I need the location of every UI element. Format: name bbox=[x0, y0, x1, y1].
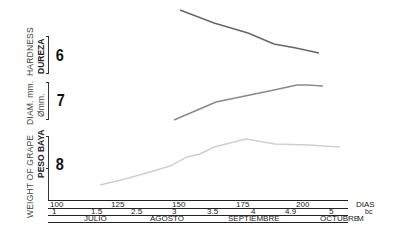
x-tick-secondary: 2.5 bbox=[131, 207, 142, 216]
x-axis-secondary-label: bc bbox=[365, 208, 372, 215]
x-tick-days: 125 bbox=[111, 200, 124, 209]
x-tick-days: 200 bbox=[296, 200, 309, 209]
x-month: AGOSTO bbox=[150, 214, 184, 223]
x-month: M bbox=[357, 214, 364, 223]
x-month: SEPTIEMBRE bbox=[228, 214, 280, 223]
x-tick-secondary: 4.9 bbox=[285, 207, 296, 216]
hardness-line bbox=[180, 10, 319, 53]
x-tick-days: 175 bbox=[236, 200, 249, 209]
x-month: JULIO bbox=[84, 214, 107, 223]
weight-line bbox=[100, 139, 340, 185]
x-tick-secondary: 1 bbox=[52, 207, 56, 216]
x-tick-secondary: 3.5 bbox=[207, 207, 218, 216]
x-month: OCTUBRE bbox=[320, 214, 359, 223]
diameter-line bbox=[174, 85, 323, 120]
